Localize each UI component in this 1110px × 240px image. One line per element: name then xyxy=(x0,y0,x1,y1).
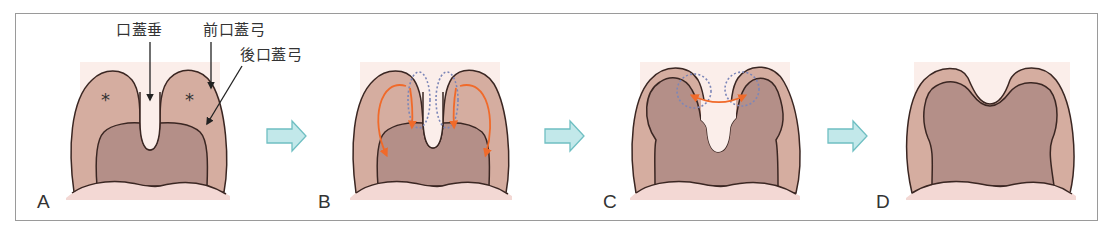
panel-label-d: D xyxy=(876,192,890,211)
asterisk-marker-left: * xyxy=(101,91,111,109)
palate-figure xyxy=(0,0,1110,240)
uvula-label: 口蓋垂 xyxy=(116,23,163,38)
step-arrow-icon xyxy=(828,121,867,151)
step-arrow-icon xyxy=(545,121,584,151)
panel-a xyxy=(66,42,242,200)
panel-b xyxy=(350,62,512,200)
asterisk-marker-right: * xyxy=(185,91,195,109)
panel-label-b: B xyxy=(318,192,331,211)
panel-label-c: C xyxy=(603,192,617,211)
panel-label-a: A xyxy=(37,192,50,211)
panel-d xyxy=(906,62,1076,200)
step-arrow-icon xyxy=(267,121,306,151)
posterior-pillar-label: 後口蓋弓 xyxy=(240,48,302,63)
panel-c xyxy=(630,62,800,200)
anterior-pillar-label: 前口蓋弓 xyxy=(203,23,265,38)
